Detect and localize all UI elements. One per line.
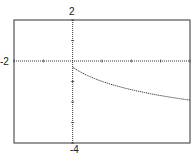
y-min-label: -4 bbox=[70, 145, 79, 155]
graph-window bbox=[0, 0, 195, 157]
y-max-label: 2 bbox=[69, 7, 75, 17]
x-min-label: -2 bbox=[0, 57, 9, 67]
function-curve bbox=[73, 67, 190, 100]
